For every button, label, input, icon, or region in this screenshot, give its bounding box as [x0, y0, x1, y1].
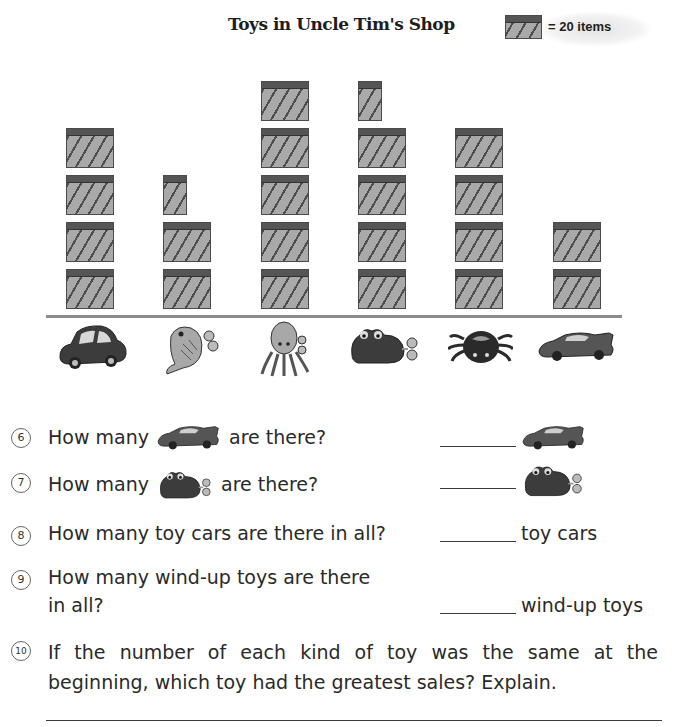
box-symbol-icon	[455, 222, 503, 262]
question-9-line-2: in all?	[48, 594, 104, 616]
question-number-10: 10	[11, 641, 31, 661]
race-car-icon	[520, 425, 588, 451]
legend-label: = 20 items	[548, 19, 611, 34]
legend-box-icon	[505, 15, 542, 39]
answer-blank-7[interactable]	[440, 488, 516, 489]
question-7-text-before: How many	[48, 473, 149, 495]
question-6: How many are there?	[48, 425, 326, 451]
wind-up-frog-icon	[348, 325, 420, 367]
box-symbol-icon	[553, 269, 601, 309]
answer-unit-8: toy cars	[521, 522, 597, 544]
box-symbol-icon	[553, 222, 601, 262]
answer-unit-9: wind-up toys	[521, 594, 643, 616]
question-number-6: 6	[11, 428, 31, 448]
answer-blank-6[interactable]	[440, 446, 516, 447]
answer-blank-9[interactable]	[440, 613, 516, 614]
wind-up-frog-icon	[522, 463, 584, 499]
box-symbol-icon	[66, 128, 114, 168]
box-symbol-icon	[66, 175, 114, 215]
toy-car-icon	[55, 322, 130, 372]
box-symbol-icon	[358, 175, 406, 215]
box-symbol-icon	[358, 222, 406, 262]
question-number-7: 7	[11, 473, 31, 493]
box-symbol-icon	[66, 222, 114, 262]
wind-up-octopus-icon	[260, 320, 315, 380]
box-symbol-icon	[163, 222, 211, 262]
half-box-symbol-icon	[163, 175, 187, 215]
box-symbol-icon	[455, 175, 503, 215]
question-6-text-before: How many	[48, 426, 149, 448]
race-car-icon	[537, 331, 617, 363]
question-number-8: 8	[11, 526, 31, 546]
box-symbol-icon	[261, 128, 309, 168]
box-symbol-icon	[261, 175, 309, 215]
question-9-line-1: How many wind-up toys are there	[48, 566, 370, 588]
half-box-symbol-icon	[358, 81, 382, 121]
wind-up-fish-icon	[163, 322, 223, 377]
question-8-text: How many toy cars are there in all?	[48, 522, 386, 544]
chart-baseline	[46, 315, 622, 318]
question-10-text: If the number of each kind of toy was th…	[48, 637, 658, 697]
race-car-icon	[155, 425, 223, 451]
box-symbol-icon	[261, 269, 309, 309]
box-symbol-icon	[261, 81, 309, 121]
box-symbol-icon	[66, 269, 114, 309]
box-symbol-icon	[358, 269, 406, 309]
question-7-text-after: are there?	[221, 473, 318, 495]
chart-title: Toys in Uncle Tim's Shop	[228, 14, 455, 34]
answer-line-10[interactable]	[46, 720, 662, 721]
answer-blank-8[interactable]	[440, 541, 516, 542]
box-symbol-icon	[358, 128, 406, 168]
question-7: How many are there?	[48, 469, 318, 501]
question-number-9: 9	[11, 570, 31, 590]
box-symbol-icon	[455, 269, 503, 309]
box-symbol-icon	[261, 222, 309, 262]
box-symbol-icon	[163, 269, 211, 309]
box-symbol-icon	[455, 128, 503, 168]
wind-up-spider-icon	[448, 325, 513, 367]
question-6-text-after: are there?	[229, 426, 326, 448]
wind-up-frog-icon	[155, 469, 215, 501]
